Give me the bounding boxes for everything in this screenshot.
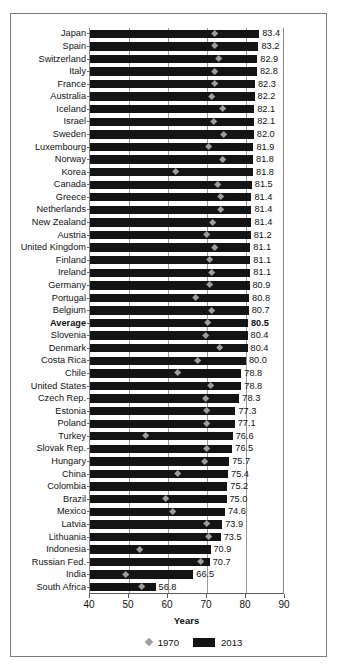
- bar-2013: [90, 420, 235, 428]
- value-label: 82.1: [257, 115, 275, 127]
- diamond-marker-icon: [144, 638, 152, 646]
- category-label: Turkey: [58, 430, 86, 442]
- category-label: Indonesia: [46, 543, 86, 555]
- category-label: Costa Rica: [41, 354, 86, 366]
- category-label: Japan: [61, 27, 86, 39]
- bar-2013: [90, 206, 251, 214]
- value-label: 82.2: [258, 90, 276, 102]
- category-label: Luxembourg: [35, 141, 86, 153]
- chart-row: Japan83.4: [90, 28, 283, 41]
- category-label: Colombia: [47, 480, 86, 492]
- chart-row: Israel82.1: [90, 116, 283, 129]
- bar-2013: [90, 570, 193, 578]
- value-label: 82.8: [260, 65, 278, 77]
- value-label: 82.3: [258, 78, 276, 90]
- x-tick-90: [284, 594, 285, 598]
- bar-2013: [90, 394, 239, 402]
- category-label: Netherlands: [36, 203, 86, 215]
- chart-row: Ireland81.1: [90, 267, 283, 280]
- category-label: Korea: [61, 166, 86, 178]
- value-label: 70.7: [213, 556, 231, 568]
- chart-row: Korea81.8: [90, 166, 283, 179]
- category-label: China: [62, 468, 86, 480]
- chart-row: Iceland82.1: [90, 103, 283, 116]
- bar-2013: [90, 118, 254, 126]
- bar-rows: Japan83.4Spain83.2Switzerland82.9Italy82…: [90, 28, 283, 593]
- value-label: 77.3: [238, 405, 256, 417]
- chart-row: Turkey76.6: [90, 430, 283, 443]
- category-label: Poland: [57, 417, 86, 429]
- bar-2013: [90, 432, 233, 440]
- chart-row: Luxembourg81.9: [90, 141, 283, 154]
- value-label: 80.7: [252, 304, 270, 316]
- category-label: France: [57, 78, 86, 90]
- bar-2013: [90, 80, 255, 88]
- chart-row: Russian Fed.70.7: [90, 556, 283, 569]
- chart-row: South Africa56.8: [90, 581, 283, 594]
- bar-2013: [90, 155, 253, 163]
- category-label: Iceland: [56, 103, 86, 115]
- category-label: Italy: [69, 65, 86, 77]
- chart-row: Latvia73.9: [90, 519, 283, 532]
- category-label: Brazil: [63, 493, 86, 505]
- chart-row: Spain83.2: [90, 41, 283, 54]
- chart-row: Italy82.8: [90, 66, 283, 79]
- chart-row: Mexico74.6: [90, 506, 283, 519]
- chart-row: Austria81.2: [90, 229, 283, 242]
- value-label: 80.9: [253, 279, 271, 291]
- category-label: Lithuania: [49, 531, 86, 543]
- value-label: 82.9: [260, 53, 278, 65]
- category-label: Ireland: [58, 266, 86, 278]
- value-label: 80.8: [252, 292, 270, 304]
- value-label: 70.9: [214, 543, 232, 555]
- bar-2013: [90, 294, 249, 302]
- bar-2013: [90, 319, 248, 327]
- bar-2013: [90, 369, 241, 377]
- value-label: 75.4: [231, 468, 249, 480]
- chart-row: Switzerland82.9: [90, 53, 283, 66]
- chart-row: Chile78.8: [90, 368, 283, 381]
- bar-2013: [90, 92, 255, 100]
- category-label: Austria: [57, 229, 86, 241]
- category-label: Sweden: [53, 128, 86, 140]
- value-label: 81.4: [254, 191, 272, 203]
- chart-row: Slovak Rep.76.5: [90, 443, 283, 456]
- category-label: Denmark: [49, 342, 86, 354]
- bar-2013: [90, 42, 258, 50]
- x-tick-50: [128, 594, 129, 598]
- bar-2013: [90, 281, 250, 289]
- bar-2013: [90, 181, 252, 189]
- bar-2013: [90, 533, 221, 541]
- value-label: 56.8: [159, 581, 177, 593]
- bar-2013: [90, 231, 251, 239]
- x-axis-title: Years: [89, 615, 284, 626]
- legend-label-1970: 1970: [158, 637, 179, 648]
- category-label: Israel: [64, 115, 86, 127]
- chart-row: Costa Rica80.0: [90, 355, 283, 368]
- x-tick-label-80: 80: [239, 599, 250, 610]
- category-label: Slovak Rep.: [36, 442, 86, 454]
- chart-row: India66.5: [90, 569, 283, 582]
- value-label: 73.5: [224, 531, 242, 543]
- x-tick-label-70: 70: [200, 599, 211, 610]
- chart-row: Hungary75.7: [90, 456, 283, 469]
- category-label: Norway: [55, 153, 86, 165]
- category-label: Greece: [56, 191, 86, 203]
- value-label: 82.1: [257, 103, 275, 115]
- category-label: Portugal: [52, 292, 86, 304]
- category-label: Hungary: [51, 455, 86, 467]
- value-label: 81.8: [256, 153, 274, 165]
- legend-item-2013: 2013: [193, 637, 242, 648]
- bar-marker-icon: [193, 638, 215, 647]
- value-label: 78.3: [242, 392, 260, 404]
- value-label: 76.6: [236, 430, 254, 442]
- value-label: 75.2: [230, 480, 248, 492]
- value-label: 81.2: [254, 229, 272, 241]
- category-label: New Zealand: [32, 216, 86, 228]
- category-label: United Kingdom: [21, 241, 86, 253]
- category-label: Germany: [48, 279, 86, 291]
- chart-row: Belgium80.7: [90, 305, 283, 318]
- x-axis: 405060708090: [89, 594, 284, 614]
- chart-row: Czech Rep.78.3: [90, 393, 283, 406]
- bar-2013: [90, 495, 227, 503]
